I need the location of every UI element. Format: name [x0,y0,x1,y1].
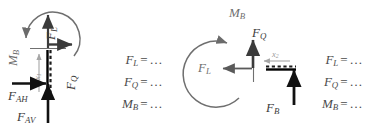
equation-column-right: FL=… FQ=… MB=… [322,52,364,112]
label-moment-right: MB [229,6,245,21]
right-diagram-vectors [0,0,374,123]
label-moment-left: MB [6,50,21,66]
equation-row: MB=… [322,96,364,112]
label-force-longitudinal-right: FL [198,61,211,76]
figure-canvas: FL FQ MB x1 FAH FAV FL=… FQ=… MB=… [0,0,374,123]
label-reaction-vertical: FAV [17,110,35,123]
left-diagram-vectors [0,0,374,123]
label-force-longitudinal-left: FL [44,27,59,40]
label-force-shear-left: FQ [64,76,79,90]
equation-row: FQ=… [322,74,364,90]
equation-row: MB=… [122,96,164,112]
equation-row: FL=… [322,52,364,68]
equation-row: FL=… [122,52,164,68]
equation-column-left: FL=… FQ=… MB=… [122,52,164,112]
label-force-shear-right: FQ [252,26,266,41]
label-reaction-horizontal: FAH [8,89,28,104]
label-dimension-x1: x1 [33,73,43,80]
label-reaction-support: FB [266,101,279,116]
label-dimension-x2: x2 [272,50,279,60]
equation-row: FQ=… [122,74,164,90]
